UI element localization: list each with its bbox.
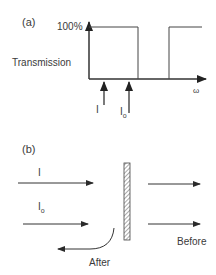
panel-b-label: (b) — [22, 144, 35, 155]
beam-label-I: I — [38, 168, 41, 178]
beam-label-I0: Io — [38, 202, 45, 212]
transmission-curve-passband-2 — [169, 27, 202, 79]
filter-plate — [124, 163, 130, 240]
arrow-label-I0-sub: o — [123, 112, 127, 119]
arrow-label-I: I — [96, 105, 99, 115]
diagram-canvas — [0, 0, 216, 275]
after-label: After — [89, 258, 110, 268]
arrow-label-I-text: I — [96, 104, 99, 115]
transmission-plot — [89, 22, 206, 113]
transmission-curve-passband-1 — [89, 27, 138, 79]
arrow-label-I0: Io — [120, 107, 127, 117]
beam-reflected-after — [58, 228, 114, 249]
y-tick-100-percent: 100% — [57, 22, 83, 32]
filter-schematic — [18, 163, 200, 249]
beam-label-I-text: I — [38, 167, 41, 178]
y-axis-label: Transmission — [12, 58, 71, 68]
x-axis-label-omega: ω — [193, 87, 199, 95]
beam-label-I0-sub: o — [41, 207, 45, 214]
before-label: Before — [177, 237, 206, 247]
panel-a-label: (a) — [22, 17, 35, 28]
